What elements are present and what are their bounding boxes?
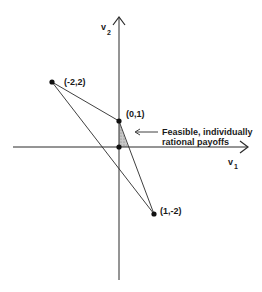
label-point-1-neg2: (1,-2) <box>160 206 182 216</box>
y-axis-label: v <box>101 22 106 32</box>
label-point-neg2-2: (-2,2) <box>64 77 86 87</box>
y-axis-subscript: 2 <box>107 29 111 36</box>
point-neg2-2 <box>49 79 54 84</box>
label-point-0-1: (0,1) <box>126 109 145 119</box>
edge-b-c <box>119 121 154 214</box>
point-0-1 <box>116 118 121 123</box>
point-1-neg2 <box>151 211 156 216</box>
x-axis-subscript: 1 <box>234 163 238 170</box>
payoff-diagram: (-2,2) (0,1) (1,-2) v 2 v 1 Feasible, in… <box>0 0 262 292</box>
edge-a-b <box>52 82 119 121</box>
edge-a-c <box>52 82 154 214</box>
annotation-line-1: Feasible, individually <box>162 127 253 137</box>
x-axis-label: v <box>228 157 233 167</box>
point-origin <box>116 144 121 149</box>
annotation-line-2: rational payoffs <box>162 137 229 147</box>
